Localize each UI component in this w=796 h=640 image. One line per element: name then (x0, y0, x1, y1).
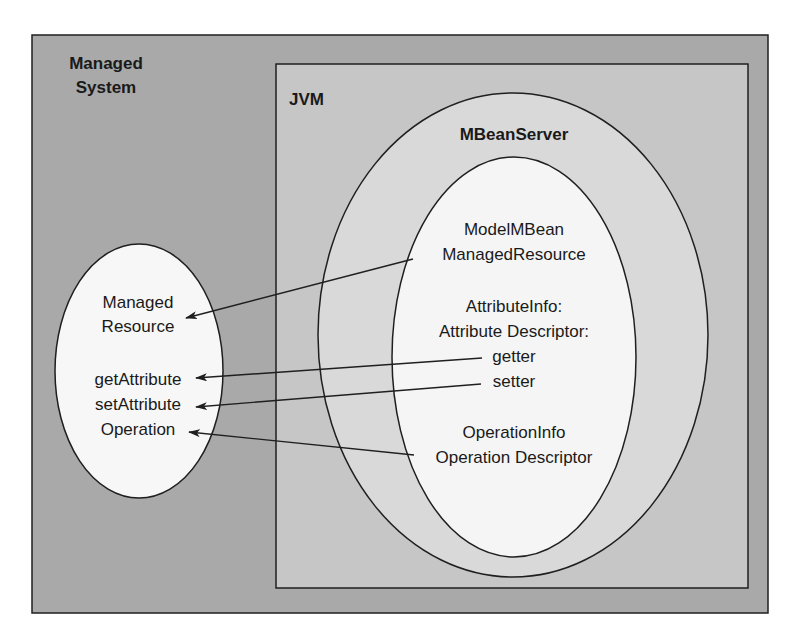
operation-descriptor-label: Operation Descriptor (436, 448, 593, 467)
modelmbean-label: ModelMBean (464, 220, 564, 239)
mbeanserver-title: MBeanServer (460, 125, 569, 144)
modelmbean-managedresource-label: ManagedResource (442, 245, 586, 264)
managed-system-title-line2: System (76, 78, 136, 97)
setattribute-label: setAttribute (95, 395, 181, 414)
getattribute-label: getAttribute (95, 370, 182, 389)
operationinfo-label: OperationInfo (462, 423, 565, 442)
getter-label: getter (492, 347, 536, 366)
managed-resource-label-line1: Managed (103, 293, 174, 312)
setter-label: setter (493, 372, 536, 391)
jmx-modelmbean-diagram: Managed System JVM MBeanServer ModelMBea… (0, 0, 796, 640)
operation-label: Operation (101, 420, 176, 439)
managed-resource-label-line2: Resource (102, 317, 175, 336)
managed-system-title-line1: Managed (69, 54, 143, 73)
attributeinfo-label: AttributeInfo: (466, 297, 562, 316)
attribute-descriptor-label: Attribute Descriptor: (439, 322, 589, 341)
jvm-title: JVM (289, 90, 324, 109)
